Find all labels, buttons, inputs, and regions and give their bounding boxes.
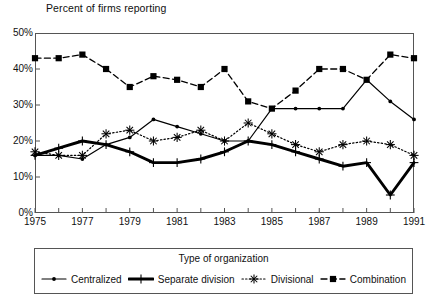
y-tick-label: 50% (1, 27, 33, 38)
x-tick-label: 1977 (71, 216, 93, 227)
x-tick-label: 1991 (403, 216, 425, 227)
y-tick-label: 30% (1, 99, 33, 110)
chart-page: Percent of firms reporting 50%40%30%20%1… (0, 0, 429, 300)
legend-item-centralized[interactable]: Centralized (41, 273, 122, 285)
x-tick-label: 1987 (308, 216, 330, 227)
legend-item-combination[interactable]: Combination (320, 273, 406, 285)
chart-title: Percent of firms reporting (46, 2, 166, 14)
legend-item-label: Separate division (158, 274, 235, 285)
legend-title: Type of organization (35, 253, 412, 264)
legend-item-separate-division[interactable]: Separate division (128, 273, 235, 285)
x-tick-label: 1989 (356, 216, 378, 227)
legend-item-label: Divisional (271, 274, 314, 285)
line-dot-marker-icon (41, 273, 67, 285)
y-tick-label: 40% (1, 63, 33, 74)
asterisk-marker-icon (241, 273, 267, 285)
legend: Type of organization CentralizedSeparate… (34, 248, 413, 294)
plot-area (35, 33, 414, 213)
y-tick-label: 10% (1, 171, 33, 182)
plus-marker-icon (128, 273, 154, 285)
x-tick-label: 1985 (261, 216, 283, 227)
y-axis-tick-labels: 50%40%30%20%10%0% (0, 0, 33, 300)
legend-item-divisional[interactable]: Divisional (241, 273, 314, 285)
legend-item-label: Centralized (71, 274, 122, 285)
x-tick-label: 1981 (166, 216, 188, 227)
x-axis-tick-labels: 197519771979198119831985198719891991 (0, 216, 429, 232)
x-tick-label: 1983 (213, 216, 235, 227)
legend-items: CentralizedSeparate divisionDivisionalCo… (41, 273, 406, 285)
x-tick-label: 1979 (119, 216, 141, 227)
y-tick-label: 20% (1, 135, 33, 146)
x-tick-label: 1975 (24, 216, 46, 227)
legend-item-label: Combination (350, 274, 406, 285)
square-marker-icon (320, 273, 346, 285)
